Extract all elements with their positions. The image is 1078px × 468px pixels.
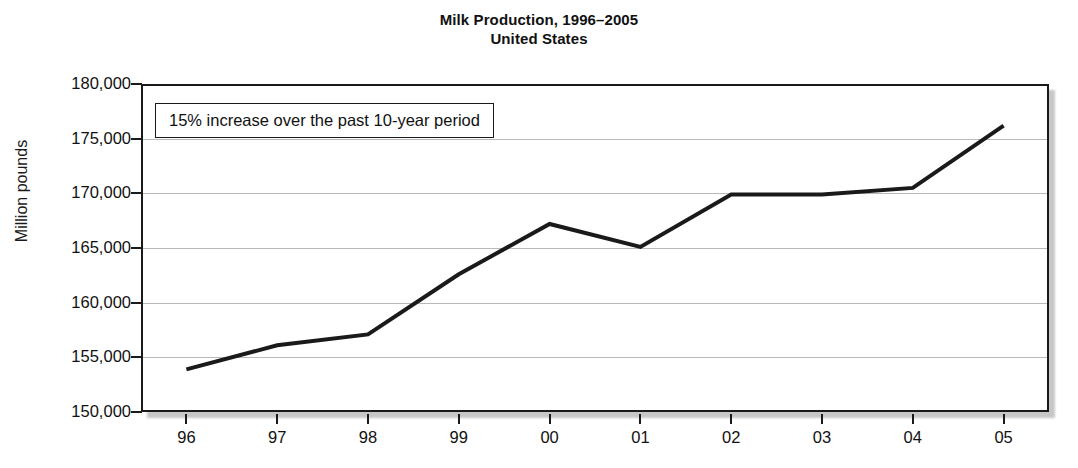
y-axis-tick-label: 180,000	[71, 74, 131, 93]
y-axis-tick-mark	[131, 302, 142, 304]
annotation-text: 15% increase over the past 10-year perio…	[169, 111, 480, 129]
gridline	[143, 139, 1047, 140]
y-axis-tick-mark	[131, 356, 142, 358]
chart-title-block: Milk Production, 1996–2005 United States	[0, 10, 1078, 48]
x-axis-tick-label: 98	[328, 428, 408, 447]
y-axis-tick-label: 175,000	[71, 129, 131, 148]
y-axis-tick-label: 155,000	[71, 347, 131, 366]
x-axis-tick-mark	[185, 414, 187, 424]
y-axis-tick-label: 170,000	[71, 183, 131, 202]
y-axis-tick-mark	[131, 83, 142, 85]
gridline	[143, 303, 1047, 304]
x-axis-tick-label: 05	[964, 428, 1044, 447]
chart-container: Milk Production, 1996–2005 United States…	[0, 0, 1078, 468]
x-axis-tick-mark	[730, 414, 732, 424]
x-axis-tick-mark	[912, 414, 914, 424]
x-axis-tick-mark	[821, 414, 823, 424]
x-axis-tick-mark	[549, 414, 551, 424]
chart-title: Milk Production, 1996–2005	[0, 10, 1078, 29]
x-axis-tick-mark	[458, 414, 460, 424]
x-axis-tick-label: 00	[510, 428, 590, 447]
y-axis-tick-label: 160,000	[71, 293, 131, 312]
x-axis-tick-label: 97	[237, 428, 317, 447]
y-axis-tick-mark	[131, 138, 142, 140]
x-axis-tick-label: 01	[600, 428, 680, 447]
x-axis-tick-label: 99	[419, 428, 499, 447]
chart-subtitle: United States	[0, 29, 1078, 48]
y-axis-tick-mark	[131, 192, 142, 194]
x-axis-tick-mark	[639, 414, 641, 424]
gridline	[143, 248, 1047, 249]
y-axis-tick-mark	[131, 247, 142, 249]
x-axis-tick-mark	[1003, 414, 1005, 424]
annotation-callout: 15% increase over the past 10-year perio…	[155, 103, 494, 138]
x-axis-tick-label: 04	[873, 428, 953, 447]
gridline	[143, 357, 1047, 358]
y-axis-tick-label: 150,000	[71, 402, 131, 421]
gridline	[143, 193, 1047, 194]
y-axis-label: Million pounds	[13, 81, 31, 301]
x-axis-tick-mark	[367, 414, 369, 424]
x-axis-tick-label: 96	[146, 428, 226, 447]
y-axis-tick-mark	[131, 411, 142, 413]
y-axis-tick-label: 165,000	[71, 238, 131, 257]
x-axis-tick-label: 02	[691, 428, 771, 447]
x-axis-tick-mark	[276, 414, 278, 424]
x-axis-tick-label: 03	[782, 428, 862, 447]
